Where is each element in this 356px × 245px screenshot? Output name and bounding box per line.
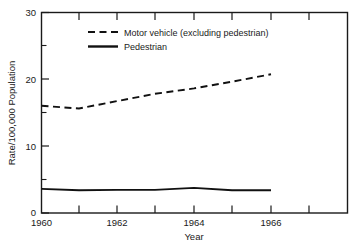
chart-legend: Motor vehicle (excluding pedestrian) Ped… bbox=[88, 28, 269, 53]
x-axis-title: Year bbox=[184, 231, 203, 242]
y-tick-label-20: 20 bbox=[25, 74, 36, 85]
x-axis-ticks-top bbox=[79, 13, 309, 21]
series-line-motor-vehicle bbox=[42, 74, 272, 108]
y-tick-label-30: 30 bbox=[25, 7, 36, 18]
line-chart-svg: 0 10 20 30 1960 1962 1964 1966 Year Rate… bbox=[0, 0, 356, 245]
x-tick-label-1960: 1960 bbox=[31, 217, 52, 228]
x-tick-label-1964: 1964 bbox=[183, 217, 204, 228]
plot-border bbox=[42, 13, 348, 214]
plot-frame bbox=[42, 13, 348, 214]
x-axis-ticks-bottom bbox=[79, 206, 309, 214]
y-axis-minor-ticks bbox=[42, 46, 47, 180]
legend-label-motor-vehicle: Motor vehicle (excluding pedestrian) bbox=[124, 28, 269, 38]
x-tick-label-1962: 1962 bbox=[106, 217, 127, 228]
series-line-pedestrian bbox=[42, 188, 272, 190]
x-tick-label-1966: 1966 bbox=[260, 217, 281, 228]
legend-label-pedestrian: Pedestrian bbox=[124, 42, 167, 52]
y-tick-label-10: 10 bbox=[25, 141, 36, 152]
chart-figure: 0 10 20 30 1960 1962 1964 1966 Year Rate… bbox=[0, 0, 356, 245]
y-axis-title: Rate/100,000 Population bbox=[6, 61, 17, 166]
